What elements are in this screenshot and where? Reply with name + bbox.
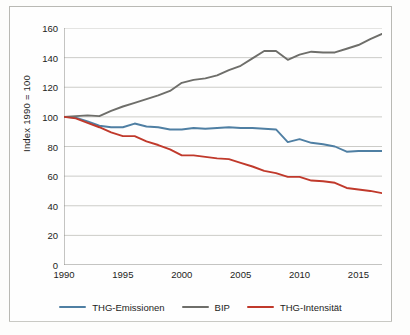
y-tick-label: 140 xyxy=(34,52,58,63)
x-axis-tick-labels: 199019952000200520102015 xyxy=(64,269,382,285)
legend-color-swatch xyxy=(59,306,86,309)
plot-area xyxy=(64,28,382,265)
x-tick-label: 2010 xyxy=(289,269,310,280)
legend-color-swatch xyxy=(247,306,274,309)
y-tick-label: 20 xyxy=(34,230,58,241)
y-tick-label: 60 xyxy=(34,171,58,182)
y-tick-label: 40 xyxy=(34,200,58,211)
legend-item[interactable]: THG-Intensität xyxy=(247,302,342,313)
y-tick-label: 100 xyxy=(34,111,58,122)
x-tick-label: 1990 xyxy=(53,269,74,280)
legend-label: BIP xyxy=(215,302,230,313)
x-tick-label: 2015 xyxy=(348,269,369,280)
y-axis-tick-labels: 020406080100120140160 xyxy=(32,28,58,265)
legend-label: THG-Emissionen xyxy=(92,302,164,313)
y-tick-label: 160 xyxy=(34,23,58,34)
legend-color-swatch xyxy=(182,306,209,309)
x-tick-label: 1995 xyxy=(112,269,133,280)
x-tick-label: 2005 xyxy=(230,269,251,280)
legend-label: THG-Intensität xyxy=(280,302,342,313)
x-tick-label: 2000 xyxy=(171,269,192,280)
y-axis-title: Index 1990 = 100 xyxy=(21,44,32,184)
legend-divider xyxy=(9,321,392,322)
legend-item[interactable]: THG-Emissionen xyxy=(59,302,164,313)
legend-item[interactable]: BIP xyxy=(182,302,230,313)
y-tick-label: 80 xyxy=(34,141,58,152)
series-line-bip xyxy=(64,34,382,117)
chart-svg xyxy=(64,28,382,265)
y-tick-label: 120 xyxy=(34,82,58,93)
chart-legend: THG-EmissionenBIPTHG-Intensität xyxy=(9,296,392,318)
chart-figure: Index 1990 = 100 020406080100120140160 1… xyxy=(0,0,410,335)
